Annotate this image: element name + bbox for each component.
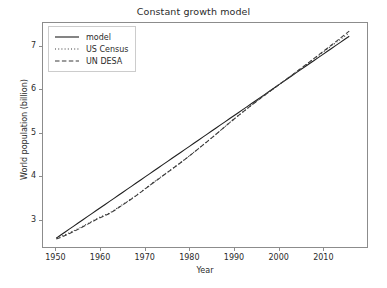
legend-item-model: model [54, 31, 128, 43]
y-tick-mark [39, 89, 42, 90]
x-tick-mark [189, 248, 190, 251]
legend-line-sample-us-census [54, 44, 80, 54]
x-tick-mark [323, 248, 324, 251]
x-tick-label: 1960 [80, 253, 120, 262]
x-tick-label: 1970 [125, 253, 165, 262]
x-tick-mark [100, 248, 101, 251]
x-tick-label: 1980 [169, 253, 209, 262]
y-tick-mark [39, 176, 42, 177]
x-tick-label: 2000 [259, 253, 299, 262]
y-tick-mark [39, 220, 42, 221]
legend-item-un-desa: UN DESA [54, 55, 128, 67]
x-tick-label: 1950 [35, 253, 75, 262]
x-tick-mark [279, 248, 280, 251]
legend-line-sample-un-desa [54, 56, 80, 66]
legend-label-un-desa: UN DESA [86, 57, 122, 66]
y-axis-label: World population (billion) [20, 50, 29, 210]
y-tick-mark [39, 46, 42, 47]
legend: model US Census UN DESA [48, 26, 136, 72]
x-tick-label: 1990 [214, 253, 254, 262]
y-tick-label: 3 [22, 215, 36, 224]
legend-line-sample-model [54, 32, 80, 42]
figure: Constant growth model 195019601970198019… [0, 0, 387, 288]
legend-label-model: model [86, 33, 111, 42]
y-tick-mark [39, 133, 42, 134]
x-tick-mark [55, 248, 56, 251]
legend-item-us-census: US Census [54, 43, 128, 55]
x-tick-mark [234, 248, 235, 251]
chart-title: Constant growth model [0, 6, 387, 17]
x-axis-label: Year [42, 266, 368, 275]
x-tick-label: 2010 [303, 253, 343, 262]
x-tick-mark [145, 248, 146, 251]
legend-label-us-census: US Census [86, 45, 128, 54]
